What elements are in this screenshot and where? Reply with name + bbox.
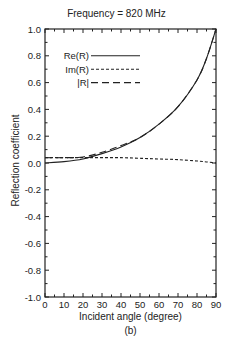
y-tick-label: -0.2: [25, 184, 41, 195]
x-tick-label: 30: [97, 299, 108, 310]
x-tick-label: 50: [135, 299, 146, 310]
x-tick-label: 20: [78, 299, 89, 310]
x-tick-label: 0: [42, 299, 47, 310]
x-tick-label: 40: [116, 299, 127, 310]
series-abs: [45, 29, 216, 158]
x-tick-label: 60: [154, 299, 165, 310]
plot-area: 0102030405060708090-1.0-0.8-0.6-0.4-0.20…: [0, 0, 233, 345]
legend-item-abs-label: |R|: [77, 77, 89, 88]
legend-item-im-label: Im(R): [65, 64, 89, 75]
x-tick-label: 90: [211, 299, 222, 310]
y-tick-label: 0.8: [28, 50, 41, 61]
y-tick-label: 0.0: [28, 158, 41, 169]
y-tick-label: 0.4: [28, 104, 41, 115]
y-tick-label: -0.8: [25, 265, 41, 276]
x-tick-label: 10: [59, 299, 70, 310]
legend-item-re-label: Re(R): [64, 50, 89, 61]
y-tick-label: 0.6: [28, 77, 41, 88]
y-tick-label: -0.4: [25, 211, 41, 222]
y-tick-label: -0.6: [25, 238, 41, 249]
x-tick-label: 70: [173, 299, 184, 310]
x-tick-label: 80: [192, 299, 203, 310]
y-tick-label: 1.0: [28, 24, 41, 35]
y-tick-label: -1.0: [25, 292, 41, 303]
y-tick-label: 0.2: [28, 131, 41, 142]
series-re: [45, 29, 216, 163]
series-im: [45, 158, 216, 163]
